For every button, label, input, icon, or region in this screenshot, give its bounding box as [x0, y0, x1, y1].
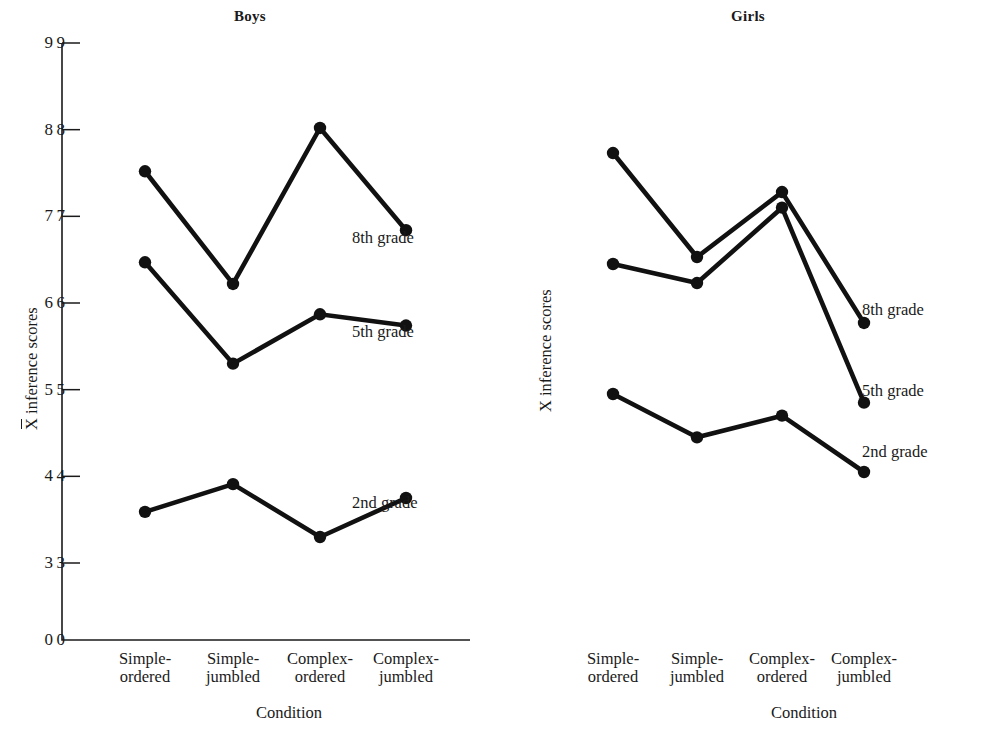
data-point [314, 531, 326, 543]
x-category-label: Simple- jumbled [188, 650, 278, 687]
x-axis-title: Condition [684, 703, 924, 723]
series-label-5th-grade: 5th grade [862, 381, 924, 401]
data-point [227, 357, 239, 369]
series-line-5th-grade [613, 208, 864, 403]
y-tick-label-7: 7 [43, 207, 65, 224]
data-point [607, 388, 619, 400]
y-tick-label-4: 4 [43, 467, 65, 484]
data-point [691, 431, 703, 443]
y-tick-label-6: 6 [43, 294, 65, 311]
data-point [227, 278, 239, 290]
data-point [314, 122, 326, 134]
series-label-8th-grade: 8th grade [352, 228, 414, 248]
data-point [691, 251, 703, 263]
x-category-label: Complex- jumbled [361, 650, 451, 687]
x-bar-glyph: X [22, 418, 42, 430]
series-label-5th-grade: 5th grade [352, 322, 414, 342]
plot-area-boys [0, 0, 502, 741]
series-line-8th-grade [613, 153, 864, 323]
series-label-2nd-grade: 2nd grade [352, 493, 418, 513]
x-axis-title: Condition [169, 703, 409, 723]
data-point [139, 256, 151, 268]
data-point [776, 409, 788, 421]
series-line-5th-grade [145, 262, 406, 363]
plot-area-girls [502, 0, 1004, 741]
y-tick-label-5: 5 [43, 381, 65, 398]
data-point [607, 147, 619, 159]
data-point [314, 308, 326, 320]
data-point [691, 277, 703, 289]
series-label-8th-grade: 8th grade [862, 300, 924, 320]
x-category-label: Complex- ordered [737, 650, 827, 687]
x-category-label: Simple- jumbled [652, 650, 742, 687]
x-category-label: Complex- ordered [275, 650, 365, 687]
series-line-8th-grade [145, 128, 406, 284]
x-category-label: Simple- ordered [100, 650, 190, 687]
series-line-2nd-grade [613, 394, 864, 472]
data-point [139, 506, 151, 518]
y-tick-label-9: 9 [43, 34, 65, 51]
y-tick-label-0: 0 [43, 631, 65, 648]
y-axis-title: X inference scores [22, 307, 42, 430]
data-point [776, 201, 788, 213]
figure-root: Boys 034567898th grade5th grade2nd grade… [0, 0, 1004, 741]
y-axis-title: X inference scores [536, 289, 556, 412]
data-point [607, 258, 619, 270]
data-point [776, 186, 788, 198]
chart-panel-boys: Boys 034567898th grade5th grade2nd grade… [0, 0, 502, 741]
y-tick-label-8: 8 [43, 121, 65, 138]
series-label-2nd-grade: 2nd grade [862, 442, 928, 462]
x-category-label: Simple- ordered [568, 650, 658, 687]
chart-panel-girls: Girls 034567898th grade5th grade2nd grad… [502, 0, 1004, 741]
data-point [139, 165, 151, 177]
y-tick-label-3: 3 [43, 554, 65, 571]
data-point [227, 478, 239, 490]
data-point [858, 466, 870, 478]
x-category-label: Complex- jumbled [819, 650, 909, 687]
